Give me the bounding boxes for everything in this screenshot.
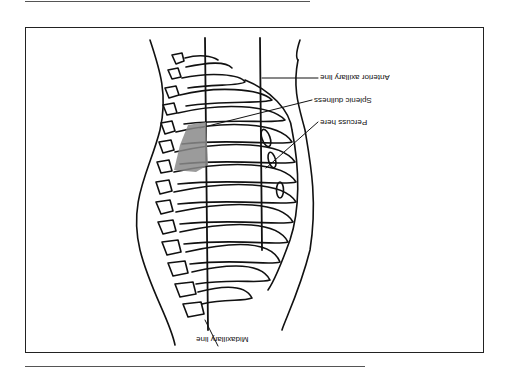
splenic-dullness-area — [174, 122, 208, 172]
anterior-axillary-line — [260, 38, 262, 250]
bottom-rule — [25, 366, 365, 367]
ribcage-illustration — [0, 0, 505, 375]
label-percuss-here: Percuss here — [320, 118, 367, 127]
label-anterior-axillary-line: Anterior axillary line — [320, 73, 390, 82]
midaxillary-line — [205, 38, 208, 330]
label-splenic-dullness: Splenic dullness — [314, 96, 372, 105]
label-midaxillary-line: Midaxillary line — [196, 335, 248, 344]
